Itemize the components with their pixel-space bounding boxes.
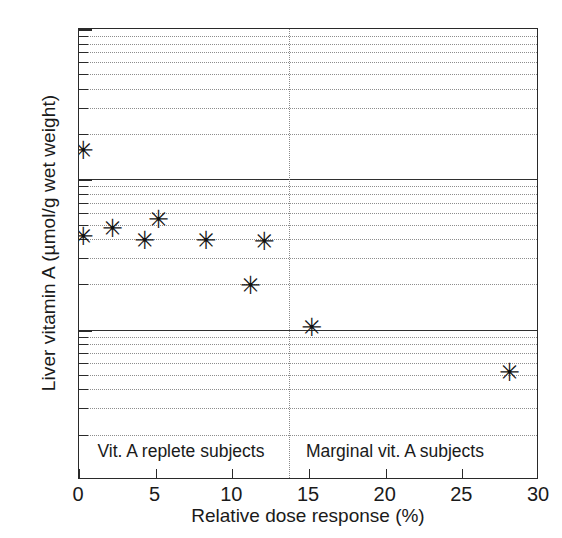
gridline-minor xyxy=(79,108,537,109)
y-tick-minor xyxy=(79,186,88,187)
data-point-marker: ✳ xyxy=(148,207,166,232)
y-tick-minor xyxy=(79,62,88,63)
x-tick xyxy=(462,469,463,478)
y-tick-minor xyxy=(79,337,88,338)
y-tick-minor xyxy=(79,353,88,354)
y-tick-minor xyxy=(79,435,88,436)
gridline-minor xyxy=(79,284,537,285)
x-tick-label: 20 xyxy=(350,483,420,506)
y-tick-minor xyxy=(79,44,88,45)
y-tick-minor xyxy=(79,36,88,37)
x-tick xyxy=(232,469,233,478)
gridline-minor xyxy=(79,363,537,364)
data-point-marker: ✳ xyxy=(79,138,91,163)
y-tick-minor xyxy=(79,203,88,204)
y-tick-minor xyxy=(79,89,88,90)
y-axis-title: Liver vitamin A (µmol/g wet weight) xyxy=(38,18,60,468)
data-point-marker: ✳ xyxy=(79,224,91,249)
x-tick-label: 15 xyxy=(273,483,343,506)
gridline-minor xyxy=(79,353,537,354)
y-tick-major xyxy=(79,29,92,31)
gridline-minor xyxy=(79,258,537,259)
x-tick xyxy=(79,469,80,478)
y-tick-minor xyxy=(79,408,88,409)
y-tick-minor xyxy=(79,213,88,214)
gridline-minor xyxy=(79,186,537,187)
y-tick-minor xyxy=(79,108,88,109)
y-tick-minor xyxy=(79,74,88,75)
x-tick-label: 10 xyxy=(196,483,266,506)
y-tick-minor xyxy=(79,344,88,345)
data-point-marker: ✳ xyxy=(240,273,258,298)
y-tick-minor xyxy=(79,134,88,135)
plot-area: ✳✳✳✳✳✳✳✳✳✳Vit. A replete subjectsMargina… xyxy=(78,28,538,479)
group-annotation: Marginal vit. A subjects xyxy=(306,441,484,462)
group-divider xyxy=(289,29,290,478)
chart-figure: Liver vitamin A (µmol/g wet weight) ✳✳✳✳… xyxy=(0,0,562,538)
data-point-marker: ✳ xyxy=(302,315,320,340)
y-tick-major xyxy=(79,179,92,181)
plot-inner-layer: ✳✳✳✳✳✳✳✳✳✳Vit. A replete subjectsMargina… xyxy=(79,29,537,478)
gridline-minor xyxy=(79,408,537,409)
gridline-minor xyxy=(79,44,537,45)
x-axis-title: Relative dose response (%) xyxy=(78,505,538,527)
gridline-minor xyxy=(79,344,537,345)
gridline-minor xyxy=(79,435,537,436)
y-tick-minor xyxy=(79,194,88,195)
gridline-minor xyxy=(79,89,537,90)
gridline-minor xyxy=(79,194,537,195)
data-point-marker: ✳ xyxy=(196,228,214,253)
gridline-minor xyxy=(79,62,537,63)
x-tick-label: 30 xyxy=(503,483,562,506)
gridline-minor xyxy=(79,52,537,53)
gridline-minor xyxy=(79,375,537,376)
gridline-minor xyxy=(79,203,537,204)
x-tick xyxy=(386,469,387,478)
gridline-minor xyxy=(79,134,537,135)
group-annotation: Vit. A replete subjects xyxy=(97,441,264,462)
x-tick xyxy=(309,469,310,478)
y-tick-minor xyxy=(79,375,88,376)
y-tick-minor xyxy=(79,363,88,364)
y-tick-minor xyxy=(79,52,88,53)
x-tick-label: 25 xyxy=(426,483,496,506)
gridline-minor xyxy=(79,74,537,75)
x-tick-label: 0 xyxy=(43,483,113,506)
y-tick-minor xyxy=(79,284,88,285)
data-point-marker: ✳ xyxy=(254,229,272,254)
data-point-marker: ✳ xyxy=(102,216,120,241)
x-tick xyxy=(156,469,157,478)
x-tick-label: 5 xyxy=(120,483,190,506)
y-tick-minor xyxy=(79,389,88,390)
gridline-major xyxy=(79,179,537,180)
data-point-marker: ✳ xyxy=(499,360,517,385)
gridline-minor xyxy=(79,389,537,390)
gridline-minor xyxy=(79,36,537,37)
y-tick-minor xyxy=(79,258,88,259)
y-tick-major xyxy=(79,330,92,332)
